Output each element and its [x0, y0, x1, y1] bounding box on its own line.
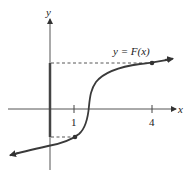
y-axis-label: y [45, 6, 51, 18]
tick-label-4: 4 [149, 116, 155, 128]
tick-label-1: 1 [71, 116, 77, 128]
x-axis-label: x [177, 103, 183, 115]
function-graph: y x 1 4 y = F(x) [0, 0, 188, 176]
curve-arrow-left-icon [10, 153, 18, 155]
point-x1 [73, 135, 78, 140]
point-x4 [150, 61, 155, 66]
function-label: y = F(x) [112, 45, 150, 58]
curve-F [11, 59, 172, 155]
